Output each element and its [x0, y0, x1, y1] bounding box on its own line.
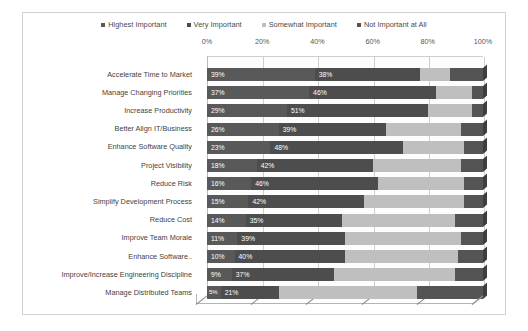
bar-value-label: 5%	[209, 288, 218, 297]
bar-segment[interactable]	[345, 232, 461, 245]
bar-segment[interactable]: 9%	[207, 268, 232, 281]
bar-segment[interactable]	[455, 214, 483, 227]
plot-floor-edge	[196, 303, 473, 304]
bar-end-cap	[483, 228, 487, 245]
bar-segment[interactable]	[472, 86, 483, 99]
bar-segment[interactable]	[436, 86, 472, 99]
bar-segment[interactable]: 38%	[315, 68, 420, 81]
bar-segment[interactable]: 37%	[232, 268, 334, 281]
bar-segment[interactable]: 39%	[279, 123, 387, 136]
bar-segment[interactable]: 29%	[207, 104, 287, 117]
chart-legend: Highest ImportantVery ImportantSomewhat …	[0, 20, 528, 29]
bar-end-cap	[483, 155, 487, 172]
bar-segment[interactable]	[464, 141, 483, 154]
bar-segment[interactable]: 15%	[207, 195, 248, 208]
bar-segment[interactable]: 21%	[221, 286, 279, 299]
bar-segment[interactable]	[279, 286, 417, 299]
bar-segment[interactable]	[420, 68, 450, 81]
bar-segment[interactable]	[458, 250, 483, 263]
bar-value-label: 18%	[211, 161, 225, 170]
bar-value-label: 35%	[250, 216, 264, 225]
bar-value-label: 48%	[274, 143, 288, 152]
bar-row: 10%40%	[196, 250, 487, 263]
bar-segment[interactable]: 48%	[270, 141, 402, 154]
bar-segment[interactable]	[378, 177, 464, 190]
bar-segment[interactable]: 39%	[207, 68, 315, 81]
bar-segment[interactable]: 37%	[207, 86, 309, 99]
bar-segment[interactable]	[373, 159, 461, 172]
x-axis-tick-label: 100%	[474, 37, 492, 46]
bar-end-cap	[483, 83, 487, 100]
x-axis-tick-label: 40%	[310, 37, 324, 46]
bar-value-label: 42%	[252, 197, 266, 206]
bar-segment[interactable]	[386, 123, 461, 136]
bar-segment[interactable]: 5%	[207, 286, 221, 299]
bar-segment[interactable]: 10%	[207, 250, 235, 263]
bar-value-label: 39%	[241, 234, 255, 243]
bar-segment[interactable]	[464, 195, 483, 208]
legend-item: Not Important at All	[357, 20, 427, 29]
bar-value-label: 14%	[211, 216, 225, 225]
x-axis-tick-labels: 0%20%40%60%80%100%	[0, 37, 528, 48]
category-label: Increase Productivity	[124, 107, 192, 115]
category-axis-labels: Accelerate Time to MarketManage Changing…	[30, 56, 192, 304]
bar-row: 18%42%	[196, 159, 487, 172]
category-label: Accelerate Time to Market	[107, 71, 192, 79]
bar-segment[interactable]: 16%	[207, 177, 251, 190]
bar-value-label: 21%	[225, 288, 239, 297]
legend-item: Very Important	[187, 20, 242, 29]
bar-segment[interactable]: 26%	[207, 123, 279, 136]
legend-swatch-icon	[101, 23, 105, 27]
bar-segment[interactable]	[472, 104, 483, 117]
bar-segment[interactable]: 42%	[248, 195, 364, 208]
bar-value-label: 26%	[211, 125, 225, 134]
bar-segment[interactable]	[464, 177, 483, 190]
bar-segment[interactable]: 35%	[246, 214, 343, 227]
bar-value-label: 51%	[291, 106, 305, 115]
bar-row: 11%39%	[196, 232, 487, 245]
bar-segment[interactable]: 11%	[207, 232, 237, 245]
category-label: Project Visibility	[141, 162, 192, 170]
bar-value-label: 38%	[319, 70, 333, 79]
bar-segment[interactable]: 23%	[207, 141, 270, 154]
bar-end-cap	[483, 192, 487, 209]
bar-segment[interactable]	[461, 159, 483, 172]
bar-segment[interactable]	[334, 268, 455, 281]
bar-segment[interactable]: 46%	[309, 86, 436, 99]
legend-item-label: Not Important at All	[364, 20, 427, 29]
legend-item-label: Highest Important	[108, 20, 166, 29]
bar-segment[interactable]	[403, 141, 464, 154]
bar-segment[interactable]	[428, 104, 472, 117]
bar-value-label: 23%	[211, 143, 225, 152]
legend-item: Somewhat Important	[262, 20, 337, 29]
bar-segment[interactable]: 18%	[207, 159, 257, 172]
bar-segment[interactable]	[417, 286, 483, 299]
bar-row: 15%42%	[196, 195, 487, 208]
bar-value-label: 46%	[313, 88, 327, 97]
bar-row: 37%46%	[196, 86, 487, 99]
bar-value-label: 15%	[211, 197, 225, 206]
bar-value-label: 40%	[239, 252, 253, 261]
bar-segment[interactable]: 51%	[287, 104, 428, 117]
legend-item-label: Very Important	[194, 20, 242, 29]
bar-segment[interactable]	[345, 250, 458, 263]
bar-segment[interactable]	[455, 268, 483, 281]
bar-end-cap	[483, 64, 487, 81]
bar-segment[interactable]	[450, 68, 483, 81]
legend-swatch-icon	[187, 23, 191, 27]
bar-segment[interactable]	[364, 195, 463, 208]
category-label: Improve/Increase Engineering Discipline	[61, 271, 192, 279]
category-label: Manage Distributed Teams	[105, 289, 192, 297]
bar-segment[interactable]	[461, 123, 483, 136]
bar-segment[interactable]: 46%	[251, 177, 378, 190]
bar-segment[interactable]: 42%	[257, 159, 373, 172]
category-label: Manage Changing Priorities	[102, 89, 192, 97]
bar-segment[interactable]: 14%	[207, 214, 246, 227]
category-label: Enhance Software..	[128, 253, 192, 261]
bar-segment[interactable]	[461, 232, 483, 245]
bar-row: 23%48%	[196, 141, 487, 154]
bar-segment[interactable]	[342, 214, 455, 227]
bar-segment[interactable]: 40%	[235, 250, 345, 263]
bar-segment[interactable]: 39%	[237, 232, 345, 245]
bar-value-label: 29%	[211, 106, 225, 115]
